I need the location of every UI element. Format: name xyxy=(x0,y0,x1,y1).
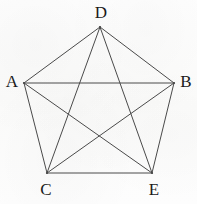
edge-d-b xyxy=(100,27,174,83)
vertex-label-c: C xyxy=(40,181,51,198)
vertex-point-b xyxy=(173,82,175,84)
geometry-figure: DABCE xyxy=(0,0,197,204)
vertex-label-e: E xyxy=(149,181,159,198)
vertex-point-d xyxy=(99,26,101,28)
vertex-label-a: A xyxy=(6,73,18,90)
edge-d-e xyxy=(100,27,152,173)
edge-layer xyxy=(24,27,174,173)
vertex-point-e xyxy=(151,172,153,174)
vertex-point-a xyxy=(23,82,25,84)
edge-d-c xyxy=(47,27,100,173)
vertex-label-b: B xyxy=(180,73,191,90)
edge-d-a xyxy=(24,27,100,83)
vertex-point-c xyxy=(46,172,48,174)
vertex-label-d: D xyxy=(95,4,107,21)
vertex-layer xyxy=(23,26,175,174)
graph-drawing xyxy=(0,0,197,204)
